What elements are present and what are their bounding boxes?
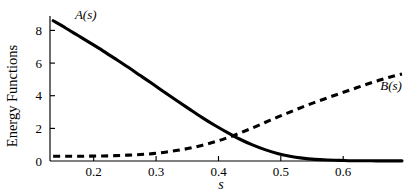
series-line-a	[53, 21, 402, 161]
x-axis-title: s	[218, 177, 224, 191]
y-tick-label-6: 6	[36, 56, 43, 71]
series-line-b	[53, 74, 402, 156]
x-tick-label-0.6: 0.6	[335, 164, 352, 179]
y-axis-title: Energy Functions	[4, 44, 20, 147]
curve-label-a: A(s)	[74, 7, 97, 22]
curve-label-b: B(s)	[380, 78, 402, 93]
energy-functions-line-chart: Energy Functions 8 6 4 2 0 0.2 0.3 0.4 0…	[0, 0, 416, 191]
chart-figure: Energy Functions 8 6 4 2 0 0.2 0.3 0.4 0…	[0, 0, 416, 191]
y-tick-label-2: 2	[36, 121, 43, 136]
x-tick-label-0.3: 0.3	[148, 164, 164, 179]
y-tick-label-0: 0	[36, 154, 43, 169]
y-tick-label-8: 8	[36, 23, 43, 38]
x-tick-label-0.5: 0.5	[273, 164, 289, 179]
x-tick-label-0.2: 0.2	[86, 164, 102, 179]
y-tick-label-4: 4	[36, 88, 43, 103]
